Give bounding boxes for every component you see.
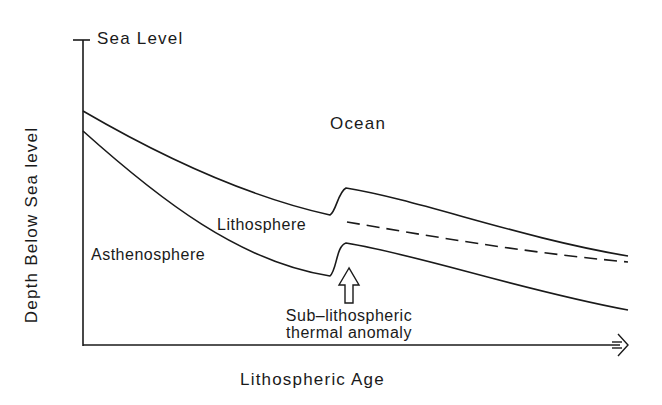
thermal-anomaly-arrow-icon [339,268,359,303]
thermal-anomaly-label: Sub–lithospheric thermal anomaly [264,307,434,341]
x-axis-label: Lithospheric Age [240,370,385,390]
thermal-anomaly-line2: thermal anomaly [264,324,434,341]
asthenosphere-label: Asthenosphere [91,246,205,264]
thermal-anomaly-line1: Sub–lithospheric [264,307,434,324]
normal-depth-dashed-curve [347,222,628,262]
sea-level-label: Sea Level [97,29,183,49]
ocean-label: Ocean [330,114,386,134]
diagram-canvas [0,0,662,405]
y-axis-label: Depth Below Sea level [22,127,42,323]
lithosphere-label: Lithosphere [217,216,306,234]
